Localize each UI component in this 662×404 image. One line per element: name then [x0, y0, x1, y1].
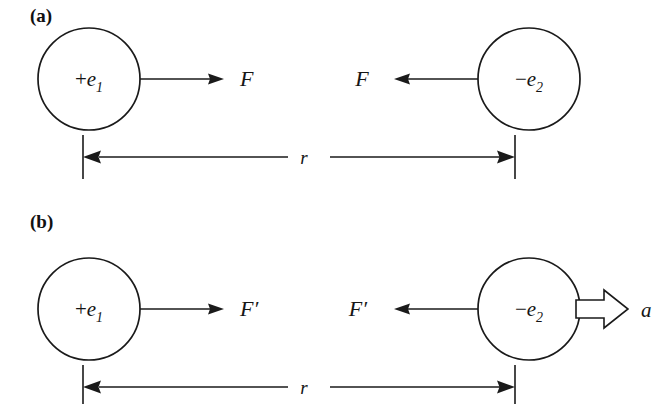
figure-canvas: (a) +e1 F −e2 F r (b): [0, 0, 662, 404]
panel-a-left-force-arrow-head: [208, 74, 224, 85]
panel-a-left-charge-subscript: 1: [96, 80, 103, 95]
panel-b-dimension-right-arrow-head: [497, 381, 515, 394]
panel-a: (a) +e1 F −e2 F r: [30, 5, 580, 179]
panel-b-left-charge-symbol: e: [87, 297, 96, 321]
panel-b-label: (b): [30, 211, 53, 233]
panel-a-right-force-label: F: [354, 66, 369, 91]
panel-a-right-charge-subscript: 2: [536, 80, 543, 95]
panel-a-left-charge-symbol: e: [87, 67, 96, 91]
panel-a-dimension-right-arrow-head: [497, 151, 515, 164]
acceleration-label: a: [641, 298, 652, 322]
panel-a-dimension-label: r: [300, 147, 308, 168]
panel-b-left-force-arrow-head: [208, 304, 224, 315]
panel-b-left-force-label: F′: [239, 296, 259, 321]
panel-a-label: (a): [30, 5, 52, 27]
panel-a-right-force-arrow-head: [394, 74, 410, 85]
panel-b-right-charge-subscript: 2: [536, 310, 543, 325]
panel-b-left-charge-sign: +: [75, 297, 87, 321]
panel-b-right-charge-symbol: e: [527, 297, 536, 321]
physics-figure: (a) +e1 F −e2 F r (b): [0, 0, 662, 404]
panel-b-right-force-label: F′: [348, 296, 368, 321]
panel-b-dimension-label: r: [300, 377, 308, 398]
panel-a-dimension-left-arrow-head: [83, 151, 101, 164]
panel-b-dimension-left-arrow-head: [83, 381, 101, 394]
panel-a-left-force-label: F: [239, 66, 254, 91]
panel-b-left-charge-subscript: 1: [96, 310, 103, 325]
panel-b: (b) +e1 F′ −e2 F′ a r: [30, 211, 652, 404]
panel-a-right-charge-sign: −: [515, 67, 527, 91]
panel-b-right-force-arrow-head: [394, 304, 410, 315]
acceleration-block-arrow: [576, 290, 628, 328]
panel-b-right-charge-sign: −: [515, 297, 527, 321]
panel-a-left-charge-sign: +: [75, 67, 87, 91]
panel-a-right-charge-symbol: e: [527, 67, 536, 91]
